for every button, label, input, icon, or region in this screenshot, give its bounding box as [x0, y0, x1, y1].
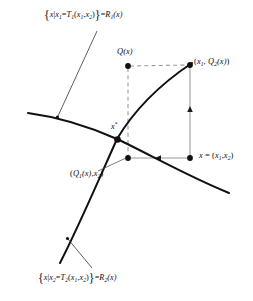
- arrowhead-up-icon: [187, 106, 193, 112]
- leader-bottom-tip: [66, 237, 69, 240]
- q1x2-first-arg: (x): [82, 169, 92, 178]
- leader-line-bottom: [68, 239, 92, 268]
- xstar-star: *: [115, 121, 118, 127]
- dashed-horizontal-top-guide: [130, 65, 189, 66]
- leader-line-top: [58, 31, 97, 116]
- leader-top-tip: [56, 115, 59, 118]
- label-x-star: x*: [111, 121, 118, 131]
- set-top-result-arg: (x): [113, 10, 122, 19]
- fixed-point-reaction-curve-figure: {x|x1=T1(x1,x2)}=R1(x) {x|x2=T2(x1,x2)}=…: [0, 0, 253, 301]
- label-x1-q2x: (x1, Q2(x)): [194, 58, 229, 67]
- qx-arg: (x): [123, 47, 133, 56]
- point-x: [187, 155, 193, 161]
- q1x2-close: ): [100, 169, 103, 178]
- xpt-equals: =: [203, 151, 212, 160]
- label-x-point: x = (x1,x2): [199, 152, 233, 161]
- point-q-of-x: [125, 63, 131, 69]
- point-x1-q2x: [187, 62, 193, 68]
- x1q2-close: ): [227, 57, 230, 66]
- label-set-R1: {x|x1=T1(x1,x2)}=R1(x): [44, 9, 123, 21]
- point-q1x-x2: [125, 155, 131, 161]
- label-q1x-x2: (Q1(x),x2): [70, 170, 103, 179]
- label-q-of-x: Q(x): [117, 48, 133, 57]
- set-bottom-result-arg: (x): [107, 273, 116, 282]
- point-x-star: [114, 136, 121, 143]
- xpt-close: ): [231, 151, 234, 160]
- reaction-curve-R2: [60, 63, 192, 263]
- x1q2-second-arg: (x): [217, 57, 227, 66]
- label-set-R2: {x|x2=T2(x1,x2)}=R2(x): [38, 272, 117, 284]
